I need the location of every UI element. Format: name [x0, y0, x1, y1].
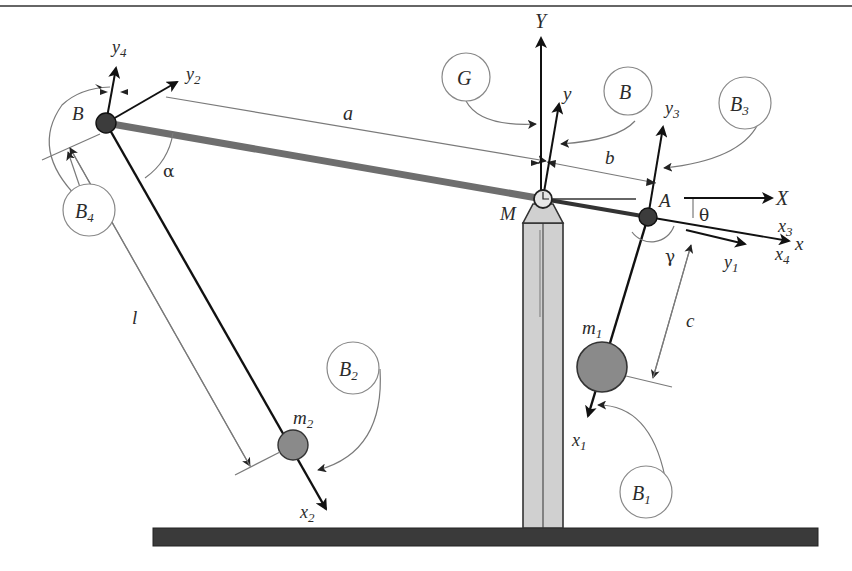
- y2-axis: [106, 82, 177, 123]
- B-point-label: B: [72, 103, 84, 124]
- y-axis: [543, 104, 559, 198]
- M-label: M: [499, 203, 517, 224]
- y3-axis-label: y3: [663, 98, 680, 121]
- x4-axis-label: x4: [774, 244, 790, 267]
- y-axis-label: y: [561, 83, 572, 104]
- mass-m1: [577, 342, 627, 392]
- x3-axis-label: x3: [777, 216, 793, 239]
- m2-label: m2: [293, 407, 314, 431]
- b-dimension: [547, 162, 656, 183]
- mass-m2: [278, 430, 308, 460]
- m1-label: m1: [582, 317, 602, 341]
- Y-axis-label: Y: [535, 10, 548, 32]
- x1-axis-label: x1: [571, 430, 587, 453]
- l-dim-ext-bottom: [235, 452, 280, 475]
- a-dimension: [166, 97, 546, 161]
- ground-bar: [153, 528, 818, 546]
- gamma-label: γ: [665, 246, 675, 266]
- x-axis-label: x: [794, 233, 804, 254]
- frame-G: G: [442, 53, 536, 124]
- X-axis-label: X: [775, 187, 789, 209]
- b-label: b: [605, 147, 615, 168]
- frame-B3: B3: [664, 77, 771, 168]
- x2-axis-label: x2: [299, 502, 315, 525]
- frame-B2: B2: [318, 342, 380, 470]
- l-label: l: [132, 307, 137, 328]
- svg-text:B: B: [619, 81, 631, 103]
- joint-B: [96, 113, 116, 133]
- c-dim-extension: [626, 376, 672, 387]
- y1-axis-label: y1: [722, 252, 739, 275]
- pillar: [523, 204, 563, 528]
- y2-axis-label: y2: [184, 64, 201, 87]
- y4-axis-label: y4: [110, 37, 127, 60]
- frame-B1: B1: [598, 405, 672, 518]
- theta-label: θ: [699, 205, 709, 225]
- gamma-arc: [632, 226, 674, 242]
- alpha-label: α: [163, 161, 175, 181]
- frame-B: B: [561, 67, 652, 144]
- c-label: c: [686, 310, 695, 331]
- svg-text:G: G: [457, 67, 472, 89]
- A-label: A: [657, 190, 671, 211]
- joint-A: [639, 208, 657, 226]
- a-label: a: [343, 102, 353, 124]
- trebuchet-diagram: X x x3 x4 y1 θ x1 y3 γ m1 c x2 m2 l α y4…: [0, 0, 852, 571]
